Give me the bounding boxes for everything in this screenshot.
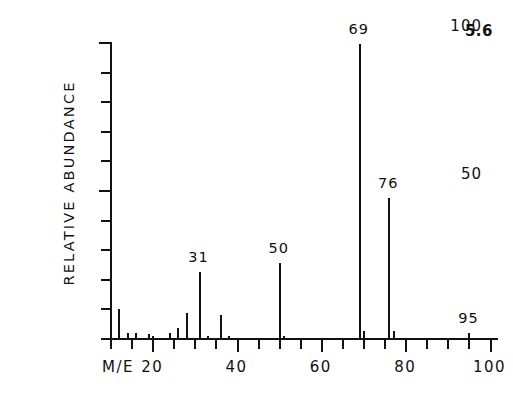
peak-label-50: 50 (268, 240, 288, 256)
y-tick-50 (99, 190, 112, 192)
peak-95 (468, 333, 470, 340)
peak-16 (135, 333, 137, 340)
x-tick-55 (300, 340, 302, 349)
peak-36 (220, 315, 222, 340)
x-axis-title: M/E (102, 358, 134, 376)
x-tick-35 (215, 340, 217, 349)
peak-label-95: 95 (458, 310, 478, 326)
x-tick-70 (363, 340, 365, 349)
peak-70 (363, 331, 365, 340)
y-tick-label-50: 50 (461, 165, 482, 183)
peak-38 (228, 336, 230, 340)
y-tick-30 (101, 249, 112, 251)
x-tick-90 (447, 340, 449, 349)
y-tick-40 (101, 220, 112, 222)
x-tick-15 (131, 340, 133, 349)
y-tick-90 (101, 72, 112, 74)
y-axis-line (110, 44, 112, 340)
x-tick-65 (342, 340, 344, 349)
x-tick-50 (279, 340, 281, 349)
y-tick-10 (101, 308, 112, 310)
x-tick-label-40: 40 (225, 358, 247, 376)
peak-24 (169, 333, 171, 340)
peak-28 (186, 313, 188, 340)
y-axis-title: RELATIVE ABUNDANCE (61, 58, 77, 308)
x-tick-label-80: 80 (394, 358, 416, 376)
x-tick-75 (384, 340, 386, 349)
peak-14 (127, 333, 129, 340)
mass-spectrum-figure: 5.6 RELATIVE ABUNDANCE 50100 20406080100… (0, 0, 513, 402)
x-tick-95 (468, 340, 470, 349)
x-tick-25 (173, 340, 175, 349)
y-tick-60 (101, 160, 112, 162)
x-tick-label-100: 100 (473, 358, 506, 376)
y-tick-20 (101, 279, 112, 281)
peak-label-76: 76 (378, 175, 398, 191)
x-tick-label-20: 20 (141, 358, 163, 376)
x-tick-45 (258, 340, 260, 349)
y-tick-70 (101, 131, 112, 133)
peak-69 (359, 44, 361, 340)
x-tick-40 (237, 340, 239, 352)
peak-50 (279, 263, 281, 340)
y-tick-100 (99, 42, 112, 44)
x-tick-80 (405, 340, 407, 352)
peak-12 (118, 309, 120, 340)
x-tick-30 (194, 340, 196, 349)
y-tick-80 (101, 101, 112, 103)
x-tick-100 (490, 340, 492, 352)
peak-label-31: 31 (188, 249, 208, 265)
x-tick-85 (426, 340, 428, 349)
x-tick-label-60: 60 (310, 358, 332, 376)
x-tick-10 (110, 340, 112, 349)
peak-19 (148, 334, 150, 340)
peak-31 (199, 272, 201, 340)
plot-area: 50100 20406080100 M/E 3150697695 (110, 44, 498, 340)
peak-33 (207, 336, 209, 340)
peak-76 (388, 198, 390, 340)
y-tick-label-100: 100 (450, 17, 482, 35)
peak-label-69: 69 (349, 21, 369, 37)
peak-77 (393, 331, 395, 340)
x-tick-20 (152, 340, 154, 352)
x-tick-60 (321, 340, 323, 352)
peak-20 (152, 336, 154, 340)
peak-51 (283, 336, 285, 340)
peak-26 (177, 328, 179, 340)
